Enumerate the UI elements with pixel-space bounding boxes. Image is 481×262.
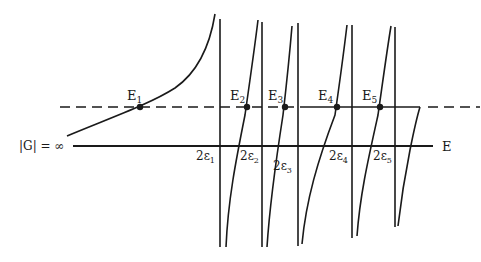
- pole-label-5: 2ε5: [373, 149, 392, 165]
- root-label-4: E4: [318, 88, 334, 105]
- pole-label-4: 2ε4: [329, 149, 348, 165]
- root-dot-4: [334, 104, 340, 110]
- root-label-5: E5: [362, 88, 378, 105]
- infinity-label: |G| = ∞: [19, 139, 64, 153]
- branch-6: [398, 107, 420, 226]
- secular-equation-diagram: E1 E2 E3 E4 E5 2ε1 2ε2 2ε3 2ε4 2ε5 E |G|…: [0, 0, 481, 262]
- root-label-2: E2: [230, 88, 245, 105]
- branch-5: [357, 26, 391, 236]
- branch-4: [302, 25, 347, 244]
- pole-label-2: 2ε2: [240, 149, 259, 165]
- root-label-3: E3: [268, 88, 284, 105]
- axis-label-e: E: [442, 139, 452, 154]
- root-dot-5: [377, 104, 383, 110]
- branch-1: [67, 14, 215, 136]
- root-label-1: E1: [127, 88, 142, 105]
- branch-2: [226, 20, 258, 247]
- branch-3: [267, 26, 292, 247]
- pole-label-1: 2ε1: [196, 149, 215, 165]
- pole-label-3: 2ε3: [273, 159, 292, 175]
